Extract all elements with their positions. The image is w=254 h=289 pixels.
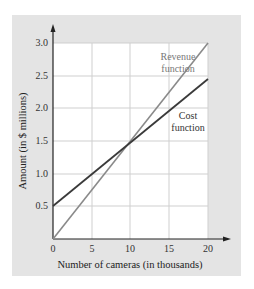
y-tick: 1.0 <box>36 168 49 179</box>
x-tick: 20 <box>203 243 213 254</box>
revenue-label: Revenue <box>161 51 197 62</box>
x-tick: 5 <box>90 243 95 254</box>
x-tick: 15 <box>164 243 174 254</box>
y-tick: 2.5 <box>36 70 49 81</box>
x-tick: 0 <box>51 243 56 254</box>
cost-label: function <box>171 122 204 133</box>
y-axis-arrow-icon <box>51 24 56 32</box>
y-tick: 2.0 <box>36 102 49 113</box>
x-axis-arrow-icon <box>223 237 231 242</box>
x-axis-title: Number of cameras (in thousands) <box>57 259 203 271</box>
revenue-label: function <box>161 63 194 74</box>
y-tick: 0.5 <box>36 200 49 211</box>
cost-label: Cost <box>179 110 198 121</box>
x-tick: 10 <box>125 243 135 254</box>
chart: 0.5 1.0 1.5 2.0 2.5 3.0 0 5 10 15 20 Num… <box>0 0 254 289</box>
y-tick: 3.0 <box>36 37 49 48</box>
y-tick: 1.5 <box>36 135 49 146</box>
y-axis-title: Amount (in $ millions) <box>17 92 29 190</box>
